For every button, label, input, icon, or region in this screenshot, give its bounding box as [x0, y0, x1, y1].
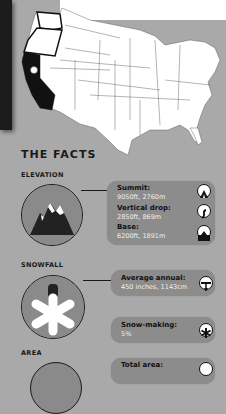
- stat-snow-making: Snow-making: 5%: [121, 321, 177, 339]
- area-icon-circle: [30, 362, 82, 414]
- base-icon: [197, 225, 211, 239]
- snowfall-snowflake-icon: [21, 275, 85, 339]
- elevation-mountain-icon: [21, 184, 83, 246]
- resort-marker: [31, 67, 38, 74]
- stat-value: 9050ft, 2760m: [117, 193, 165, 202]
- facts-heading: THE FACTS: [21, 148, 96, 161]
- stat-summit: Summit: 9050ft, 2760m: [117, 184, 165, 202]
- stat-value: 450 inches, 1143cm: [121, 283, 187, 292]
- area-label: AREA: [21, 349, 42, 357]
- stat-value: 5%: [121, 330, 177, 339]
- stat-label: Average annual:: [121, 274, 187, 283]
- stat-vertical-drop: Vertical drop: 2850ft, 869m: [117, 204, 171, 222]
- snow-making-panel: Snow-making: 5%: [111, 317, 215, 343]
- stat-label: Total area:: [121, 361, 163, 370]
- elevation-stats-panel: Summit: 9050ft, 2760m Vertical drop: 285…: [107, 181, 215, 245]
- stat-value: 2850ft, 869m: [117, 213, 171, 222]
- average-annual-panel: Average annual: 450 inches, 1143cm: [111, 270, 215, 296]
- stat-label: Base:: [117, 223, 165, 232]
- snow-depth-icon: [199, 276, 213, 290]
- stat-value: 6200ft, 1891m: [117, 232, 165, 241]
- stat-total-area: Total area:: [121, 361, 163, 370]
- vertical-drop-icon: [197, 204, 211, 218]
- stat-label: Vertical drop:: [117, 204, 171, 213]
- snowfall-label: SNOWFALL: [21, 261, 63, 269]
- elevation-label: ELEVATION: [21, 171, 64, 179]
- stat-average-annual: Average annual: 450 inches, 1143cm: [121, 274, 187, 292]
- total-area-panel: Total area:: [111, 358, 215, 384]
- summit-icon: [197, 184, 211, 198]
- us-map: [0, 0, 226, 160]
- stat-label: Summit:: [117, 184, 165, 193]
- snowflake-icon: [199, 323, 213, 337]
- stat-label: Snow-making:: [121, 321, 177, 330]
- area-icon: [199, 362, 213, 376]
- elevation-connector: [81, 190, 107, 191]
- stat-base: Base: 6200ft, 1891m: [117, 223, 165, 241]
- snowfall-connector: [83, 280, 111, 281]
